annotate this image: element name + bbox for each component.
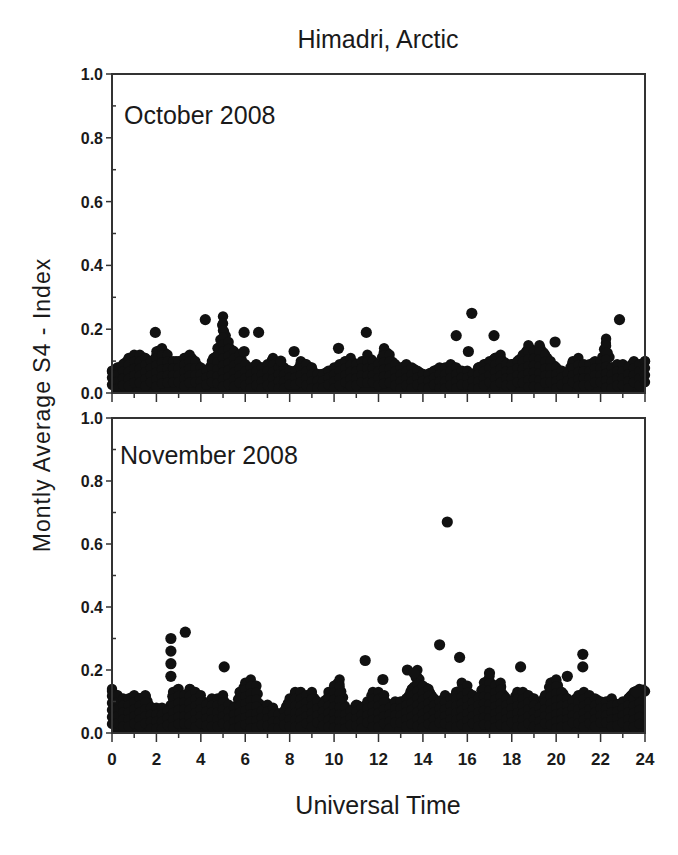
outlier-point (488, 330, 499, 341)
outlier-point (408, 668, 419, 679)
outlier-point (577, 661, 588, 672)
y-tick-label: 0.6 (81, 194, 103, 211)
x-tick-label: 22 (591, 750, 610, 769)
panel-november: 0.00.20.40.60.81.0 November 2008 (81, 410, 650, 742)
outlier-point (219, 661, 230, 672)
november-x-ticks (112, 733, 645, 742)
october-panel-label: October 2008 (124, 101, 276, 129)
outlier-point (165, 671, 176, 682)
chart-canvas: Himadri, Arctic Montly Average S4 - Inde… (0, 0, 678, 855)
outlier-point (614, 314, 625, 325)
x-tick-label: 20 (547, 750, 566, 769)
y-tick-label: 0.6 (81, 536, 103, 553)
y-tick-label: 1.0 (81, 66, 103, 83)
figure: Himadri, Arctic Montly Average S4 - Inde… (0, 0, 678, 855)
outlier-point (275, 356, 286, 367)
outlier-point (466, 308, 477, 319)
outlier-point (165, 633, 176, 644)
x-tick-label: 16 (458, 750, 477, 769)
outlier-point (442, 516, 453, 527)
outlier-point (451, 330, 462, 341)
x-tick-label: 8 (285, 750, 294, 769)
y-tick-label: 0.4 (81, 599, 103, 616)
y-axis-label: Montly Average S4 - Index (29, 258, 55, 552)
outlier-point (361, 327, 372, 338)
outlier-point (550, 336, 561, 347)
outlier-point (377, 674, 388, 685)
outlier-point (239, 346, 250, 357)
x-tick-labels: 024681012141618202224 (107, 750, 655, 769)
y-tick-label: 0.8 (81, 130, 103, 147)
outlier-point (333, 343, 344, 354)
y-tick-label: 0.2 (81, 321, 103, 338)
outlier-point (577, 649, 588, 660)
outlier-point (289, 346, 300, 357)
x-tick-label: 6 (241, 750, 250, 769)
outlier-point (180, 627, 191, 638)
y-tick-label: 0.4 (81, 257, 103, 274)
panel-october: 0.00.20.40.60.81.0 October 2008 (81, 66, 650, 402)
outlier-point (165, 658, 176, 669)
x-axis-title: Universal Time (295, 791, 460, 819)
november-panel-label: November 2008 (120, 441, 298, 469)
y-tick-label: 0.0 (81, 725, 103, 742)
outlier-point (165, 646, 176, 657)
x-tick-label: 2 (152, 750, 161, 769)
x-tick-label: 0 (107, 750, 116, 769)
november-data-points (107, 516, 650, 734)
x-tick-label: 12 (369, 750, 388, 769)
y-axis-title: Montly Average S4 - Index (29, 258, 55, 552)
y-tick-label: 0.2 (81, 662, 103, 679)
outlier-point (484, 668, 495, 679)
outlier-point (150, 327, 161, 338)
outlier-point (454, 652, 465, 663)
outlier-point (434, 639, 445, 650)
october-y-ticks: 0.00.20.40.60.81.0 (81, 66, 116, 402)
outlier-point (253, 327, 264, 338)
x-tick-label: 14 (413, 750, 432, 769)
outlier-point (463, 346, 474, 357)
chart-title: Himadri, Arctic (297, 25, 458, 53)
october-data-points (107, 308, 650, 394)
outlier-point (562, 671, 573, 682)
outlier-point (360, 655, 371, 666)
october-x-ticks (112, 393, 645, 402)
outlier-point (515, 661, 526, 672)
x-tick-label: 10 (325, 750, 344, 769)
outlier-point (631, 686, 642, 697)
x-tick-label: 24 (636, 750, 655, 769)
outlier-point (239, 327, 250, 338)
x-tick-label: 4 (196, 750, 206, 769)
x-tick-label: 18 (502, 750, 521, 769)
y-tick-label: 0.0 (81, 385, 103, 402)
outlier-point (200, 314, 211, 325)
y-tick-label: 1.0 (81, 410, 103, 427)
y-tick-label: 0.8 (81, 473, 103, 490)
